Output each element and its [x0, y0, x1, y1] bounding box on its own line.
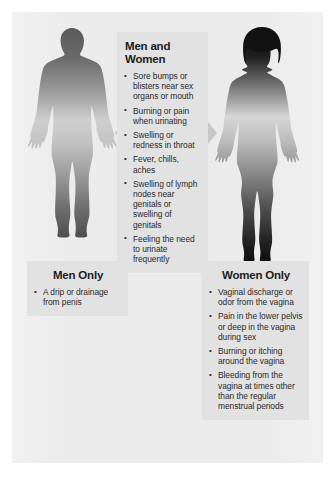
list-item: Swelling of lymph nodes near genitals or…	[124, 179, 202, 230]
panel-women-only: Women Only Vaginal discharge or odor fro…	[202, 261, 309, 420]
panel-men-and-women-list: Sore bumps or blisters near sex organs o…	[124, 71, 202, 264]
list-item: A drip or drainage from penis	[34, 287, 122, 307]
list-item: Sore bumps or blisters near sex organs o…	[124, 71, 202, 102]
list-item: Feeling the need to urinate frequently	[124, 234, 202, 265]
list-item: Pain in the lower pelvis or deep in the …	[209, 311, 303, 342]
list-item: Vaginal discharge or odor from the vagin…	[209, 287, 303, 307]
triangle-right-icon	[208, 122, 217, 144]
list-item: Bleeding from the vagina at times other …	[209, 370, 303, 411]
panel-men-only-list: A drip or drainage from penis	[34, 287, 122, 307]
list-item: Burning or itching around the vagina	[209, 346, 303, 366]
male-silhouette	[26, 26, 118, 274]
list-item: Swelling or redness in throat	[124, 130, 202, 150]
panel-men-only: Men Only A drip or drainage from penis	[27, 261, 128, 316]
panel-women-only-list: Vaginal discharge or odor from the vagin…	[209, 287, 303, 411]
list-item: Fever, chills, aches	[124, 154, 202, 174]
panel-men-and-women: Men and Women Sore bumps or blisters nea…	[117, 32, 208, 273]
panel-men-only-title: Men Only	[34, 269, 122, 282]
infographic-poster: Men and Women Sore bumps or blisters nea…	[12, 12, 323, 463]
panel-women-only-title: Women Only	[209, 269, 303, 282]
list-item: Burning or pain when urinating	[124, 106, 202, 126]
panel-men-and-women-title: Men and Women	[124, 40, 202, 66]
female-silhouette	[215, 26, 309, 274]
